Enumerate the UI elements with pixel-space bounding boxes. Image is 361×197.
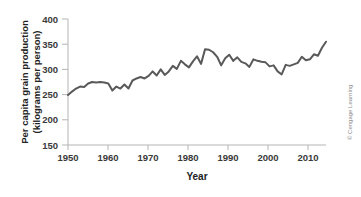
chart-figure: 400 350 300 250 200 150 1950 1960 1970 1… <box>0 0 361 197</box>
y-axis-title-line1: Per capita grain production <box>19 20 30 144</box>
x-axis-ticks <box>68 145 308 150</box>
y-tick-label-150: 150 <box>42 140 58 151</box>
y-tick-label-350: 350 <box>42 39 58 50</box>
y-axis-ticks <box>62 19 68 145</box>
grain-production-line-chart: 400 350 300 250 200 150 1950 1960 1970 1… <box>0 0 361 197</box>
y-tick-label-250: 250 <box>42 89 58 100</box>
x-tick-label-1990: 1990 <box>217 152 238 163</box>
x-tick-label-2010: 2010 <box>297 152 318 163</box>
x-axis-title: Year <box>186 171 207 182</box>
copyright-credit: © Cengage Learning <box>347 85 353 140</box>
x-tick-label-2000: 2000 <box>257 152 278 163</box>
x-tick-label-1980: 1980 <box>177 152 198 163</box>
y-axis-title: Per capita grain production (kilograms p… <box>19 20 42 144</box>
y-tick-label-400: 400 <box>42 14 58 25</box>
x-tick-label-1960: 1960 <box>97 152 118 163</box>
data-series-line <box>68 42 326 95</box>
y-axis-title-line2: (kilograms per person) <box>31 31 42 134</box>
x-tick-label-1970: 1970 <box>137 152 158 163</box>
y-tick-label-200: 200 <box>42 114 58 125</box>
x-tick-label-1950: 1950 <box>57 152 78 163</box>
y-tick-label-300: 300 <box>42 64 58 75</box>
